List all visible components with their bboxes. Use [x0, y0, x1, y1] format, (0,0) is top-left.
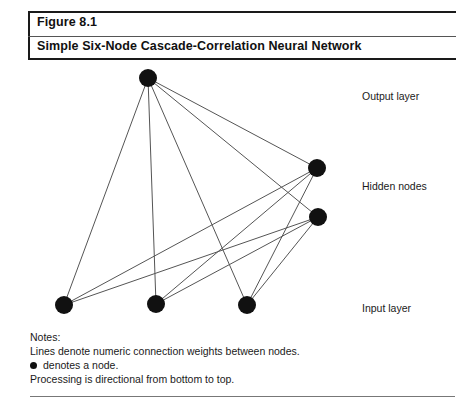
- label-hidden-nodes: Hidden nodes: [362, 180, 427, 192]
- network-node-input1: [55, 296, 73, 314]
- network-node-input3: [238, 296, 256, 314]
- node-bullet-icon: [30, 362, 37, 369]
- network-edge: [64, 78, 148, 305]
- notes-heading: Notes:: [30, 330, 450, 344]
- network-edge: [156, 168, 317, 304]
- footer-rule: [30, 396, 455, 397]
- network-edge: [148, 78, 156, 304]
- figure-container: Figure 8.1 Simple Six-Node Cascade-Corre…: [0, 0, 467, 412]
- network-node-output: [139, 69, 157, 87]
- network-edge: [64, 217, 318, 305]
- network-edge: [64, 168, 317, 305]
- label-output-layer: Output layer: [362, 90, 419, 102]
- network-edge: [247, 217, 318, 305]
- notes-line-processing: Processing is directional from bottom to…: [30, 372, 450, 386]
- network-edge: [148, 78, 318, 217]
- network-node-input2: [147, 295, 165, 313]
- notes-block: Notes: Lines denote numeric connection w…: [30, 330, 450, 386]
- notes-line-node: denotes a node.: [30, 358, 450, 372]
- network-node-hidden1: [308, 159, 326, 177]
- notes-line-weights: Lines denote numeric connection weights …: [30, 344, 450, 358]
- label-input-layer: Input layer: [362, 302, 411, 314]
- notes-line-node-text: denotes a node.: [43, 358, 118, 372]
- edge-layer: [64, 78, 318, 305]
- network-node-hidden2: [309, 208, 327, 226]
- network-edge: [156, 217, 318, 304]
- network-edge: [148, 78, 317, 168]
- network-edge: [247, 168, 317, 305]
